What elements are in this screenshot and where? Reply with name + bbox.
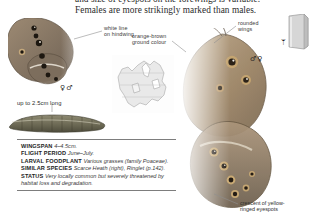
- intro-paragraph: and size of eyespots on the forewings is…: [75, 0, 293, 16]
- fact-key-wingspan: WINGSPAN: [21, 143, 53, 149]
- fact-key-similar-species: SIMILAR SPECIES: [21, 165, 72, 171]
- field-guide-page: and size of eyespots on the forewings is…: [0, 0, 320, 224]
- butterfly-underside-illustration: [176, 28, 296, 218]
- callout-crescent-eyespots: crescent of yellow- ringed eyespots: [240, 200, 285, 213]
- fact-value-flight-period: June–July.: [68, 150, 94, 156]
- fact-value-similar-species: Scarce Heath (right), Ringlet (p.142).: [74, 165, 165, 171]
- fact-key-larval-foodplant: LARVAL FOODPLANT: [21, 158, 82, 164]
- moth-icon: ᛘ: [279, 38, 288, 47]
- fact-key-flight-period: FLIGHT PERIOD: [21, 150, 66, 156]
- fact-value-wingspan: 4–4.5cm.: [54, 143, 77, 149]
- sex-symbols-right: ♂♀: [250, 55, 263, 63]
- fact-key-status: STATUS: [21, 173, 43, 179]
- fact-row-wingspan: WINGSPAN 4–4.5cm.: [21, 143, 173, 150]
- size-label: up to 2.5cm long: [17, 100, 61, 107]
- sex-symbols-left: ♀♂: [60, 84, 73, 92]
- fact-value-larval-foodplant: Various grasses (family Poaceae).: [83, 158, 168, 164]
- callout-rounded-wings: rounded wings: [238, 20, 258, 33]
- callout-white-line: white line on hindwing: [104, 25, 134, 38]
- book-icon: [287, 14, 309, 50]
- fact-row-status: STATUS Very locally common but severely …: [21, 173, 173, 187]
- butterfly-upperside-illustration: [8, 18, 104, 88]
- distribution-map: [112, 55, 174, 113]
- fact-value-status: Very locally common but severely threate…: [21, 173, 164, 186]
- fact-row-larval-foodplant: LARVAL FOODPLANT Various grasses (family…: [21, 158, 173, 165]
- fact-box: WINGSPAN 4–4.5cm. FLIGHT PERIOD June–Jul…: [17, 139, 176, 191]
- fact-row-similar-species: SIMILAR SPECIES Scarce Heath (right), Ri…: [21, 165, 173, 172]
- fact-row-flight-period: FLIGHT PERIOD June–July.: [21, 150, 173, 157]
- caterpillar-illustration: [6, 110, 110, 136]
- callout-orange-brown: orange-brown ground colour: [132, 33, 166, 46]
